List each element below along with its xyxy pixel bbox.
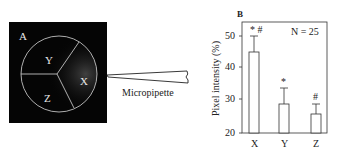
bar-y [279, 104, 289, 133]
significance-mark-x: * # [250, 24, 263, 35]
bar-x [249, 52, 259, 133]
xtick-z: Z [313, 138, 319, 149]
xtick-y: Y [281, 138, 288, 149]
micropipette-icon [107, 71, 188, 83]
ytick-40: 40 [225, 61, 235, 72]
sample-size-annotation: N = 25 [291, 26, 319, 37]
significance-mark-z: # [313, 91, 318, 102]
ytick-20: 20 [225, 127, 235, 138]
xtick-x: X [251, 138, 258, 149]
significance-mark-y: * [281, 76, 286, 87]
region-y-label: Y [45, 55, 53, 66]
ytick-50: 50 [225, 30, 235, 41]
panel-b-label: B [237, 9, 243, 19]
ytick-30: 30 [225, 93, 235, 104]
panel-a-label: A [19, 31, 27, 42]
micropipette-label: Micropipette [122, 87, 174, 98]
region-x-label: X [80, 76, 88, 87]
figure-svg [0, 0, 339, 155]
bar-z [311, 114, 321, 133]
region-z-label: Z [44, 93, 51, 104]
y-axis-label: Pixel intensity (%) [210, 34, 221, 124]
